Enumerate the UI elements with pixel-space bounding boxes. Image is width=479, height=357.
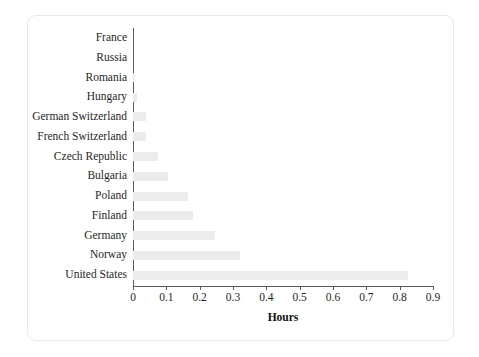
category-label: Czech Republic <box>54 147 133 167</box>
x-axis-tick <box>333 286 334 290</box>
x-axis-spine <box>133 286 433 287</box>
bar <box>133 172 168 181</box>
bar <box>133 231 215 240</box>
bar-row: German Switzerland <box>133 107 433 127</box>
category-label: Hungary <box>87 87 133 107</box>
bar-row: Bulgaria <box>133 166 433 186</box>
category-label: United States <box>65 265 133 285</box>
bar-row: French Switzerland <box>133 127 433 147</box>
bar <box>133 271 408 280</box>
category-label: Germany <box>84 226 133 246</box>
x-axis-tick <box>400 286 401 290</box>
x-axis-title: Hours <box>133 311 433 323</box>
x-axis-tick <box>166 286 167 290</box>
x-axis-tick <box>233 286 234 290</box>
bar <box>133 73 135 82</box>
category-label: German Switzerland <box>32 107 133 127</box>
x-axis-tick <box>433 286 434 290</box>
bar <box>133 211 193 220</box>
category-label: France <box>96 28 133 48</box>
category-label: Romania <box>85 68 133 88</box>
bar-row: Czech Republic <box>133 147 433 167</box>
category-label: Poland <box>95 186 133 206</box>
x-axis-tick <box>200 286 201 290</box>
x-axis-tick <box>300 286 301 290</box>
bar-row: Finland <box>133 206 433 226</box>
bar-row: Norway <box>133 245 433 265</box>
bar <box>133 152 158 161</box>
bar-row: United States <box>133 265 433 285</box>
bar-row: Germany <box>133 226 433 246</box>
bar <box>133 132 146 141</box>
bar-row: Russia <box>133 48 433 68</box>
bar <box>133 112 146 121</box>
bar-row: Hungary <box>133 87 433 107</box>
x-axis-tick-label: 0.9 <box>413 291 453 303</box>
bar <box>133 251 240 260</box>
bar <box>133 93 137 102</box>
x-axis-tick <box>366 286 367 290</box>
category-label: French Switzerland <box>37 127 133 147</box>
x-axis-tick <box>266 286 267 290</box>
bar-row: Poland <box>133 186 433 206</box>
category-label: Russia <box>96 48 133 68</box>
bar-chart-figure: FranceRussiaRomaniaHungaryGerman Switzer… <box>0 0 479 357</box>
plot-area: FranceRussiaRomaniaHungaryGerman Switzer… <box>133 28 433 285</box>
category-label: Norway <box>90 245 133 265</box>
category-label: Finland <box>92 206 133 226</box>
bar-row: Romania <box>133 68 433 88</box>
bar-row: France <box>133 28 433 48</box>
category-label: Bulgaria <box>87 166 133 186</box>
x-axis-tick <box>133 286 134 290</box>
bar <box>133 192 188 201</box>
